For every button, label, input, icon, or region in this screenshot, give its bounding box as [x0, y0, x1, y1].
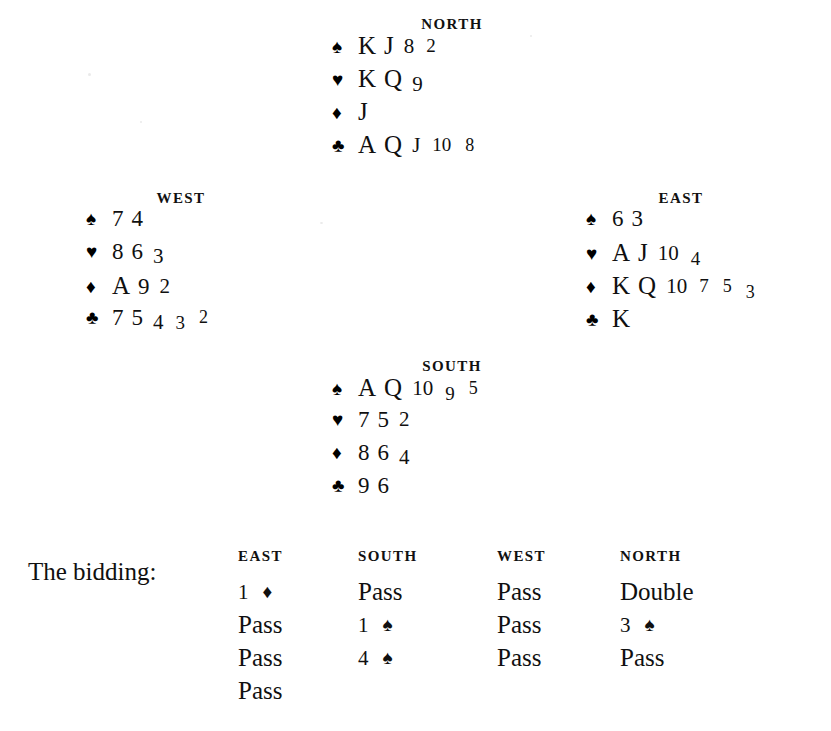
- card: 8: [112, 240, 124, 263]
- card: 6: [612, 207, 624, 230]
- card: 5: [132, 306, 144, 329]
- card-list: KQ10753: [612, 273, 755, 298]
- bid-cell: Pass: [358, 575, 508, 608]
- suit-row-hearts: ♥863: [86, 240, 326, 273]
- heart-suit-icon: ♥: [586, 244, 612, 263]
- suit-row-hearts: ♥752: [332, 408, 572, 441]
- card: 6: [378, 441, 390, 464]
- hand-south: SOUTH ♠AQ1095♥752♦864♣96: [332, 358, 572, 507]
- card: 4: [153, 312, 164, 333]
- hand-north: NORTH ♠KJ82♥KQ9♦J♣AQJ108: [332, 16, 572, 165]
- card-list: 752: [358, 408, 410, 431]
- diamond-suit-icon: ♦: [332, 443, 358, 462]
- card: 9: [445, 384, 455, 403]
- card: 3: [176, 313, 186, 332]
- bid-cell: Pass: [238, 674, 388, 707]
- scan-speckle: [530, 35, 532, 37]
- club-suit-icon: ♣: [332, 136, 358, 155]
- suit-rows-west: ♠74♥863♦A92♣75432: [86, 207, 326, 339]
- card: 8: [404, 36, 415, 57]
- card-list: 75432: [112, 306, 208, 329]
- card: 8: [465, 136, 474, 154]
- bid-level: 4: [358, 646, 369, 670]
- suit-row-spades: ♠KJ82: [332, 33, 572, 66]
- card: 6: [132, 240, 144, 263]
- club-suit-icon: ♣: [586, 310, 612, 329]
- card: 7: [112, 306, 124, 329]
- bid-level: 3: [620, 613, 631, 637]
- hand-west: WEST ♠74♥863♦A92♣75432: [86, 190, 326, 339]
- card: 2: [426, 36, 436, 55]
- card-list: AQJ108: [358, 132, 474, 157]
- bid-call: Pass: [497, 644, 541, 671]
- card: J: [384, 33, 394, 58]
- suit-row-diamonds: ♦A92: [86, 273, 326, 306]
- card: 9: [138, 275, 150, 298]
- bidding-column-header: SOUTH: [358, 548, 508, 575]
- card: 2: [399, 409, 410, 430]
- suit-row-diamonds: ♦864: [332, 441, 572, 474]
- hand-label-south: SOUTH: [332, 358, 572, 375]
- bid-call: Pass: [238, 644, 282, 671]
- card: Q: [638, 273, 656, 298]
- bid-call: Pass: [497, 611, 541, 638]
- card: Q: [384, 66, 402, 91]
- card-list: AJ104: [612, 240, 700, 265]
- bid-level: 1: [358, 613, 369, 637]
- card: K: [358, 66, 376, 91]
- card-list: 74: [112, 207, 143, 230]
- hand-label-north: NORTH: [332, 16, 572, 33]
- card: A: [358, 132, 376, 157]
- hand-label-east: EAST: [586, 190, 776, 207]
- card: 3: [632, 207, 644, 230]
- spade-suit-icon: ♠: [586, 209, 612, 228]
- heart-suit-icon: ♥: [332, 70, 358, 89]
- suit-row-clubs: ♣75432: [86, 306, 326, 339]
- bid-cell: Double: [620, 575, 770, 608]
- scan-speckle: [140, 121, 142, 123]
- card: Q: [384, 375, 402, 400]
- club-suit-icon: ♣: [332, 476, 358, 495]
- card: 7: [112, 207, 124, 230]
- bid-cell: 4♠: [358, 641, 508, 674]
- card: 4: [132, 207, 144, 230]
- bidding-title: The bidding:: [28, 558, 156, 586]
- suit-rows-east: ♠63♥AJ104♦KQ10753♣K: [586, 207, 831, 339]
- bid-call: Pass: [358, 578, 402, 605]
- suit-row-spades: ♠63: [586, 207, 831, 240]
- card: 5: [723, 277, 732, 295]
- heart-suit-icon: ♥: [86, 242, 112, 261]
- card: 10: [412, 378, 433, 399]
- card: Q: [384, 132, 402, 157]
- suit-rows-north: ♠KJ82♥KQ9♦J♣AQJ108: [332, 33, 572, 165]
- card: J: [358, 99, 368, 124]
- card: 5: [469, 379, 478, 397]
- card: 2: [160, 276, 171, 297]
- spade-suit-icon: ♠: [369, 614, 393, 635]
- bid-level: 1: [238, 580, 249, 604]
- suit-row-clubs: ♣AQJ108: [332, 132, 572, 165]
- card-list: 864: [358, 441, 410, 464]
- bid-cell: 3♠: [620, 608, 770, 641]
- bid-call: Pass: [620, 644, 664, 671]
- club-suit-icon: ♣: [86, 308, 112, 327]
- card-list: 63: [612, 207, 643, 230]
- card: J: [412, 135, 420, 156]
- bidding-column-header: NORTH: [620, 548, 770, 575]
- scan-speckle: [320, 222, 323, 224]
- card: 10: [666, 276, 687, 297]
- suit-row-hearts: ♥AJ104: [586, 240, 831, 273]
- diamond-suit-icon: ♦: [249, 581, 273, 602]
- card: 7: [699, 276, 709, 295]
- suit-row-clubs: ♣96: [332, 474, 572, 507]
- bid-cell: 1♠: [358, 608, 508, 641]
- spade-suit-icon: ♠: [631, 614, 655, 635]
- bid-call: Pass: [238, 677, 282, 704]
- card-list: K: [612, 306, 630, 331]
- card: J: [638, 240, 648, 265]
- suit-row-spades: ♠AQ1095: [332, 375, 572, 408]
- card: 5: [378, 408, 390, 431]
- hand-label-west: WEST: [86, 190, 276, 207]
- card-list: 863: [112, 240, 164, 263]
- card: K: [358, 33, 376, 58]
